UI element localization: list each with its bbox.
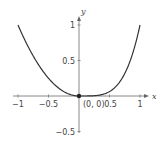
x-tick-label: −0.5 [39,100,58,109]
y-tick-label: 0.5 [62,57,75,66]
x-axis-label: x [152,92,157,101]
y-axis-arrow-icon [77,16,81,21]
x-tick-label: 1 [137,100,142,109]
y-axis-label: y [80,7,86,16]
y-tick-label: 1 [70,21,75,30]
x-tick-label: −1 [12,100,24,109]
origin-point [77,94,81,98]
tick-labels: −1−0.510.5−0.50.51 [12,21,142,137]
y-axis [77,16,81,133]
chart-canvas: −1−0.510.5−0.50.51 x y (0, 0) [0,0,160,143]
origin-annotation: (0, 0) [83,100,105,109]
x-tick-label: 0.5 [104,100,117,109]
x-axis-arrow-icon [144,94,149,98]
y-tick-label: −0.5 [56,128,75,137]
